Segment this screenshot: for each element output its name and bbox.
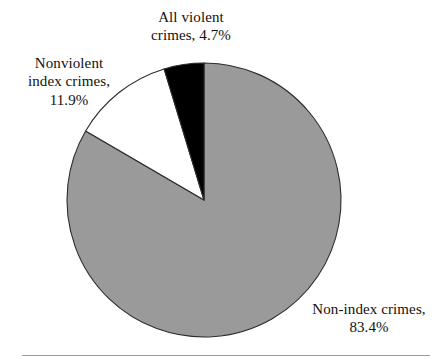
pie-label-nonviolent-index-crimes: Nonviolent index crimes, 11.9% [6,54,132,109]
figure-bottom-rule [22,355,430,356]
pie-label-non-index-crimes: Non-index crimes, 83.4% [298,300,440,337]
pie-chart-figure: All violent crimes, 4.7% Nonviolent inde… [0,0,443,362]
pie-label-all-violent-crimes: All violent crimes, 4.7% [118,8,264,45]
